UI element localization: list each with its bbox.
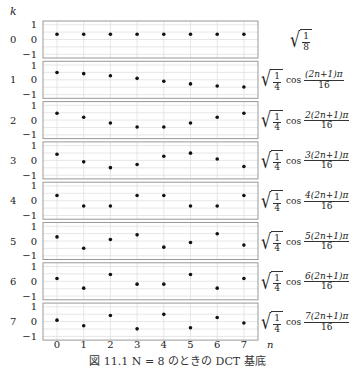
y-tick-label: −1 <box>22 331 37 342</box>
data-point <box>162 313 166 317</box>
data-point <box>189 326 193 330</box>
data-point <box>162 125 166 129</box>
y-tick-label: 0 <box>31 316 37 327</box>
x-tick-label: 5 <box>187 339 193 350</box>
data-point <box>82 204 86 208</box>
x-tick-label: 7 <box>241 339 247 350</box>
data-point <box>215 32 219 36</box>
data-point <box>215 232 219 236</box>
sqrt-symbol: √14 <box>261 189 283 213</box>
y-tick-label: 1 <box>31 60 37 71</box>
data-point <box>189 121 193 125</box>
basis-formula-k0: √18 <box>290 26 312 54</box>
data-point <box>135 327 139 331</box>
basis-formula-k4: √14cos4(2n+1)π16 <box>261 187 349 215</box>
data-point <box>162 245 166 249</box>
y-tick-label: 1 <box>31 180 37 191</box>
data-point <box>55 111 59 115</box>
data-point <box>189 151 193 155</box>
data-point <box>189 273 193 277</box>
basis-formula-k3: √14cos3(2n+1)π16 <box>261 147 349 175</box>
data-point <box>135 163 139 167</box>
data-point <box>215 204 219 208</box>
y-tick-label: −1 <box>22 210 37 221</box>
data-point <box>242 85 246 89</box>
basis-formula-k7: √14cos7(2n+1)π16 <box>261 308 349 336</box>
y-tick-label: −1 <box>22 291 37 302</box>
y-tick-label: 1 <box>31 19 37 30</box>
data-point <box>215 84 219 88</box>
data-point <box>242 321 246 325</box>
data-point <box>215 115 219 119</box>
data-point <box>189 204 193 208</box>
data-point <box>215 157 219 161</box>
data-point <box>82 72 86 76</box>
data-point <box>109 273 113 277</box>
data-point <box>242 243 246 247</box>
data-point <box>189 241 193 245</box>
data-point <box>109 32 113 36</box>
k-row-label: 3 <box>10 155 16 166</box>
x-tick-label: 6 <box>214 339 220 350</box>
data-point <box>162 32 166 36</box>
x-tick-label: 1 <box>81 339 87 350</box>
y-tick-label: 0 <box>31 74 37 85</box>
y-tick-label: 1 <box>31 261 37 272</box>
y-tick-label: 0 <box>31 34 37 45</box>
y-tick-label: 1 <box>31 301 37 312</box>
data-point <box>135 194 139 198</box>
data-point <box>242 111 246 115</box>
data-point <box>82 286 86 290</box>
data-point <box>55 194 59 198</box>
data-point <box>109 238 113 242</box>
y-tick-label: 1 <box>31 100 37 111</box>
data-point <box>55 235 59 239</box>
sqrt-symbol: √14 <box>261 149 283 173</box>
x-tick-label: 0 <box>54 339 60 350</box>
n-axis-label: n <box>267 339 273 350</box>
k-row-label: 2 <box>10 115 16 126</box>
sqrt-symbol: √14 <box>261 68 283 92</box>
y-tick-label: −1 <box>22 250 37 261</box>
data-point <box>242 165 246 169</box>
data-point <box>109 314 113 318</box>
data-point <box>162 79 166 83</box>
x-tick-label: 3 <box>134 339 140 350</box>
k-row-label: 6 <box>10 276 16 287</box>
sqrt-symbol: √14 <box>261 109 283 133</box>
data-point <box>242 32 246 36</box>
basis-formula-k5: √14cos5(2n+1)π16 <box>261 228 349 256</box>
data-point <box>109 166 113 170</box>
k-axis-label: k <box>10 5 17 18</box>
data-point <box>162 194 166 198</box>
y-tick-label: −1 <box>22 89 37 100</box>
data-point <box>135 233 139 237</box>
basis-formula-k1: √14cos(2n+1)π16 <box>261 66 344 94</box>
y-tick-label: 0 <box>31 236 37 247</box>
data-point <box>82 115 86 119</box>
y-tick-label: 0 <box>31 115 37 126</box>
data-point <box>162 282 166 286</box>
data-point <box>189 32 193 36</box>
data-point <box>242 194 246 198</box>
y-tick-label: −1 <box>22 49 37 60</box>
k-row-label: 1 <box>10 74 16 85</box>
data-point <box>55 71 59 75</box>
data-point <box>135 77 139 81</box>
y-tick-label: −1 <box>22 129 37 140</box>
data-point <box>109 74 113 78</box>
data-point <box>55 318 59 322</box>
data-point <box>135 282 139 286</box>
data-point <box>109 121 113 125</box>
data-point <box>82 246 86 250</box>
data-point <box>242 277 246 281</box>
data-point <box>215 316 219 320</box>
sqrt-symbol: √14 <box>261 230 283 254</box>
y-tick-label: 0 <box>31 155 37 166</box>
data-point <box>82 32 86 36</box>
data-point <box>135 32 139 36</box>
data-point <box>109 204 113 208</box>
x-tick-label: 2 <box>107 339 113 350</box>
data-point <box>162 154 166 158</box>
sqrt-symbol: √14 <box>261 270 283 294</box>
